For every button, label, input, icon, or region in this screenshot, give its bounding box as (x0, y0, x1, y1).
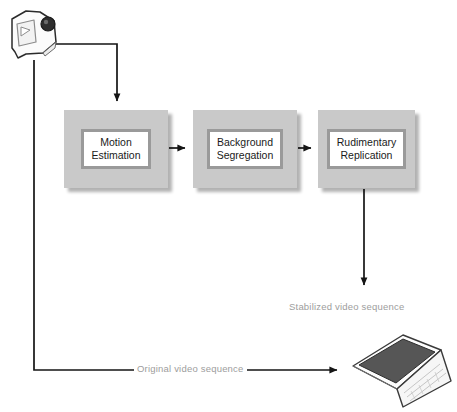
stage-label-line2: Estimation (91, 149, 140, 162)
connector-camera-to-laptop (34, 60, 337, 370)
stage-label-line1: Motion (100, 136, 132, 149)
stage-label-line1: Background (217, 136, 273, 149)
diagram-canvas: Motion Estimation Background Segregation… (0, 0, 457, 412)
stage-label-motion-estimation: Motion Estimation (81, 129, 150, 170)
stage-label-line2: Segregation (217, 149, 274, 162)
laptop-glyph (341, 333, 453, 409)
label-stabilized-video-sequence: Stabilized video sequence (289, 301, 404, 312)
label-original-video-sequence: Original video sequence (134, 363, 247, 374)
stage-box-background-segregation[interactable]: Background Segregation (193, 110, 297, 188)
stage-label-line1: Rudimentary (337, 136, 397, 149)
stage-label-background-segregation: Background Segregation (207, 129, 284, 170)
stage-box-rudimentary-replication[interactable]: Rudimentary Replication (318, 110, 415, 188)
stage-box-motion-estimation[interactable]: Motion Estimation (64, 110, 168, 188)
laptop-icon (341, 333, 453, 409)
camcorder-glyph (6, 8, 64, 64)
stage-label-rudimentary-replication: Rudimentary Replication (327, 129, 407, 170)
camcorder-icon (6, 8, 64, 64)
stage-label-line2: Replication (341, 149, 393, 162)
